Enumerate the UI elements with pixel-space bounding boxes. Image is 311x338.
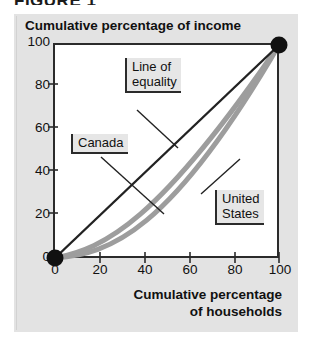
callout-canada-label: Canada xyxy=(78,135,124,150)
x-axis-title-line1: Cumulative percentage xyxy=(60,286,282,303)
callout-line-of-equality-line2: equality xyxy=(132,74,177,89)
callout-united-states-line1: United xyxy=(222,191,260,206)
united-states-leader xyxy=(201,159,240,194)
origin-point-marker xyxy=(47,250,64,267)
callout-united-states-line2: States xyxy=(222,206,260,221)
endpoint-marker xyxy=(271,37,288,54)
x-axis-title: Cumulative percentage of households xyxy=(60,286,282,320)
callout-united-states: United States xyxy=(215,190,264,225)
callout-canada: Canada xyxy=(71,134,128,154)
callout-line-of-equality-line1: Line of xyxy=(132,59,171,74)
line-of-equality-leader xyxy=(137,110,178,148)
callout-line-of-equality: Line of equality xyxy=(125,58,181,93)
figure-root: FIGURE 1 Cumulative percentage of income… xyxy=(0,0,311,338)
x-axis-title-line2: of households xyxy=(60,303,282,320)
axis-ticks xyxy=(48,84,279,263)
